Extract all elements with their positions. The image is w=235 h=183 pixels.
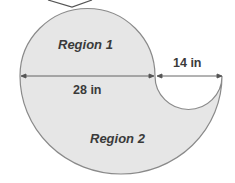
region-1-label: Region 1 — [58, 37, 113, 52]
partial-shape-top — [48, 0, 92, 7]
region-2-label: Region 2 — [90, 131, 146, 146]
composite-shape-diagram: Region 1 28 in 14 in Region 2 — [0, 0, 235, 183]
dimension-28in-label: 28 in — [73, 83, 102, 97]
dimension-line-14in — [157, 74, 222, 78]
dimension-14in-label: 14 in — [173, 56, 202, 70]
shape-outline — [20, 8, 222, 174]
